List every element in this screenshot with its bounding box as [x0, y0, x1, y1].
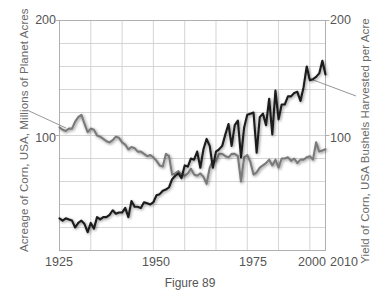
plot-area	[0, 0, 380, 296]
yield-series-line	[60, 61, 326, 232]
figure-caption: Figure 89	[0, 276, 380, 290]
figure-container: Acreage of Corn, USA, Millions of Planet…	[0, 0, 380, 296]
acreage-series-line	[60, 115, 326, 184]
